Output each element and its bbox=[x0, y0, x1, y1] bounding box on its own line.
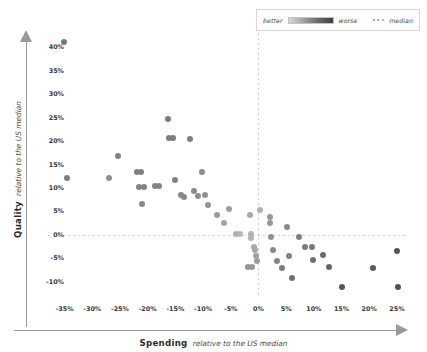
data-point bbox=[254, 258, 260, 264]
x-tick-label: -5% bbox=[224, 305, 238, 313]
x-tick-label: -35% bbox=[56, 305, 74, 313]
y-tick-label: 15% bbox=[42, 161, 64, 169]
chart-root: better worse median -35%-30%-25%-20%-15%… bbox=[0, 0, 427, 352]
y-tick-label: 35% bbox=[42, 67, 64, 75]
data-point bbox=[257, 207, 263, 213]
x-axis-arrow-icon bbox=[396, 324, 408, 336]
y-tick-label: 5% bbox=[42, 207, 64, 215]
data-point bbox=[247, 212, 253, 218]
y-tick-label: 0% bbox=[42, 231, 64, 239]
x-tick-label: -20% bbox=[139, 305, 157, 313]
x-tick-label: -25% bbox=[111, 305, 129, 313]
data-point bbox=[289, 275, 295, 281]
x-axis-title-sub: relative to the US median bbox=[193, 339, 288, 348]
data-point bbox=[284, 224, 290, 230]
x-axis-line bbox=[14, 330, 396, 331]
data-point bbox=[274, 258, 280, 264]
x-tick-label: -10% bbox=[194, 305, 212, 313]
data-point bbox=[181, 194, 187, 200]
data-point bbox=[226, 206, 232, 212]
data-point bbox=[320, 252, 326, 258]
x-tick-label: 10% bbox=[306, 305, 321, 313]
data-point bbox=[139, 201, 145, 207]
data-point bbox=[115, 153, 121, 159]
data-point bbox=[214, 212, 220, 218]
data-point bbox=[286, 253, 292, 259]
data-point bbox=[279, 265, 285, 271]
x-tick-label: 25% bbox=[389, 305, 404, 313]
legend-median-swatch bbox=[373, 17, 384, 24]
legend-color-ramp bbox=[288, 17, 334, 24]
data-point bbox=[296, 234, 302, 240]
data-point bbox=[172, 177, 178, 183]
data-point bbox=[202, 192, 208, 198]
x-tick-label: -30% bbox=[83, 305, 101, 313]
data-point bbox=[309, 244, 315, 250]
x-tick-label: 20% bbox=[362, 305, 377, 313]
x-axis-title: Spending relative to the US median bbox=[0, 331, 427, 350]
data-point bbox=[249, 264, 255, 270]
data-point bbox=[64, 175, 70, 181]
data-point bbox=[310, 257, 316, 263]
data-point bbox=[156, 183, 162, 189]
data-point bbox=[302, 244, 308, 250]
y-axis-title: Quality relative to the US median bbox=[6, 75, 25, 265]
data-point bbox=[199, 169, 205, 175]
chart-legend: better worse median bbox=[256, 9, 420, 31]
data-point bbox=[138, 169, 144, 175]
y-tick-label: -10% bbox=[42, 278, 64, 286]
data-point bbox=[339, 284, 345, 290]
data-point bbox=[141, 184, 147, 190]
x-tick-label: 0% bbox=[253, 305, 264, 313]
data-point bbox=[326, 264, 332, 270]
data-point bbox=[205, 202, 211, 208]
legend-worse-label: worse bbox=[339, 17, 358, 24]
legend-median-label: median bbox=[389, 17, 413, 24]
y-axis-arrow-icon bbox=[20, 30, 32, 42]
data-point bbox=[395, 284, 401, 290]
y-tick-label: 30% bbox=[42, 90, 64, 98]
data-point bbox=[267, 220, 273, 226]
x-axis-title-main: Spending bbox=[140, 338, 188, 348]
data-point bbox=[237, 231, 243, 237]
y-tick-label: 25% bbox=[42, 114, 64, 122]
y-axis-title-sub: relative to the US median bbox=[14, 101, 23, 196]
y-tick-label: 40% bbox=[42, 43, 64, 51]
data-point bbox=[370, 265, 376, 271]
data-point bbox=[268, 234, 274, 240]
y-tick-label: 10% bbox=[42, 184, 64, 192]
x-tick-label: 15% bbox=[334, 305, 349, 313]
data-point bbox=[221, 220, 227, 226]
median-line-horizontal bbox=[48, 235, 408, 236]
x-tick-label: 5% bbox=[281, 305, 292, 313]
data-point bbox=[170, 135, 176, 141]
y-axis-line bbox=[26, 42, 27, 327]
data-point bbox=[248, 235, 254, 241]
data-point bbox=[106, 175, 112, 181]
x-tick-label: -15% bbox=[166, 305, 184, 313]
plot-area bbox=[48, 33, 408, 296]
data-point bbox=[394, 248, 400, 254]
y-axis-title-main: Quality bbox=[13, 201, 23, 238]
legend-better-label: better bbox=[263, 17, 283, 24]
data-point bbox=[270, 247, 276, 253]
data-point bbox=[195, 193, 201, 199]
y-tick-label: -5% bbox=[42, 254, 64, 262]
y-tick-label: 20% bbox=[42, 137, 64, 145]
data-point bbox=[165, 116, 171, 122]
data-point bbox=[187, 136, 193, 142]
